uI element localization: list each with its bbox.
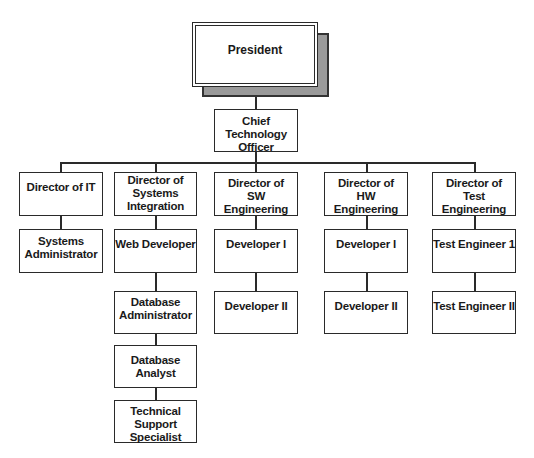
connector-sw-1 bbox=[255, 216, 257, 229]
node-label-line: Chief Technology bbox=[225, 115, 287, 140]
connector-si-3 bbox=[155, 334, 157, 345]
connector-it-1 bbox=[60, 216, 62, 229]
node-label: Test Engineer II bbox=[433, 300, 515, 333]
node-label: Director of SW Engineering bbox=[219, 177, 293, 215]
node-director-sw: Director of SW Engineering bbox=[214, 172, 298, 216]
node-label: Director of IT bbox=[27, 181, 96, 215]
connector-test-1 bbox=[474, 216, 476, 229]
connector-si-1 bbox=[155, 216, 157, 229]
connector-bus-hw bbox=[366, 162, 368, 172]
node-label-line: Officer bbox=[238, 141, 274, 153]
connector-hw-1 bbox=[366, 216, 368, 229]
node-systems-administrator: Systems Administrator bbox=[19, 229, 103, 273]
connector-hw-2 bbox=[366, 273, 368, 291]
connector-bus-it bbox=[60, 162, 62, 172]
connector-si-2 bbox=[155, 273, 157, 291]
node-hw-developer-1: Developer I bbox=[324, 229, 408, 273]
node-sw-developer-1: Developer I bbox=[214, 229, 298, 273]
node-label: Developer II bbox=[225, 300, 288, 333]
node-technical-support-specialist: Technical Support Specialist bbox=[114, 400, 197, 443]
connector-bus-sw bbox=[255, 162, 257, 172]
node-database-analyst: Database Analyst bbox=[114, 345, 197, 388]
connector-sw-2 bbox=[255, 273, 257, 291]
node-label: Database Analyst bbox=[115, 354, 196, 387]
node-label: Developer I bbox=[336, 238, 396, 272]
node-test-engineer-2: Test Engineer II bbox=[432, 291, 516, 334]
node-director-test: Director of Test Engineering bbox=[432, 172, 516, 216]
node-director-systems-integration: Director of Systems Integration bbox=[114, 172, 197, 216]
node-web-developer: Web Developer bbox=[114, 229, 197, 273]
node-label: Systems Administrator bbox=[25, 235, 98, 272]
node-label: Database Administrator bbox=[119, 296, 192, 333]
node-cto: Chief TechnologyOfficer bbox=[214, 109, 298, 152]
node-label: Director of Test Engineering bbox=[435, 177, 513, 215]
connector-bus-si bbox=[155, 162, 157, 172]
node-label: Web Developer bbox=[115, 238, 195, 272]
node-label: Developer II bbox=[335, 300, 398, 333]
node-label: Test Engineer 1 bbox=[433, 238, 515, 272]
node-label: Developer I bbox=[226, 238, 286, 272]
director-bus bbox=[60, 162, 475, 164]
node-database-administrator: Database Administrator bbox=[114, 291, 197, 334]
connector-test-2 bbox=[474, 273, 476, 291]
node-president: President bbox=[192, 22, 318, 87]
connector-bus-test bbox=[474, 162, 476, 172]
node-label: Technical Support Specialist bbox=[115, 405, 196, 442]
node-hw-developer-2: Developer II bbox=[324, 291, 408, 334]
node-label: President bbox=[228, 43, 283, 57]
node-director-it: Director of IT bbox=[19, 172, 103, 216]
node-label: Director of HW Engineering bbox=[329, 177, 403, 215]
node-test-engineer-1: Test Engineer 1 bbox=[432, 229, 516, 273]
node-label: Director of Systems Integration bbox=[121, 174, 190, 215]
connector-si-4 bbox=[155, 388, 157, 400]
node-director-hw: Director of HW Engineering bbox=[324, 172, 408, 216]
node-sw-developer-2: Developer II bbox=[214, 291, 298, 334]
node-label: Chief TechnologyOfficer bbox=[215, 115, 297, 151]
